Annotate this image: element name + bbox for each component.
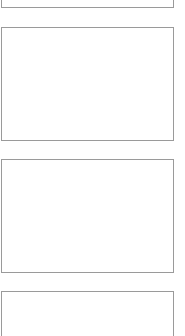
empty-panel <box>1 27 174 141</box>
panel-list <box>0 0 185 336</box>
empty-panel <box>1 159 174 273</box>
empty-panel <box>1 0 174 8</box>
empty-panel <box>1 291 174 336</box>
